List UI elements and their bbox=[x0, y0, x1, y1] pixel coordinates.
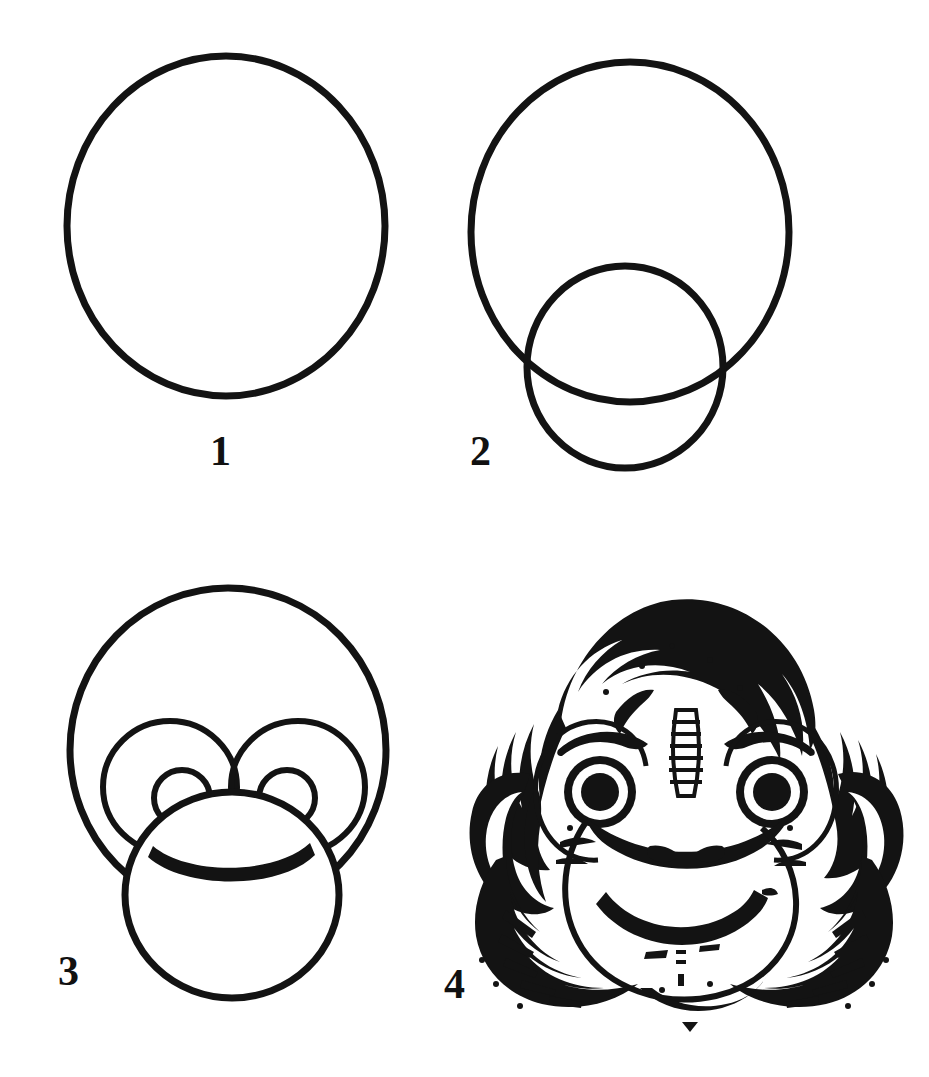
step-1-label: 1 bbox=[210, 430, 231, 472]
mouth-right-flick bbox=[762, 888, 778, 896]
step-2-drawing bbox=[440, 0, 929, 540]
step-4-panel bbox=[410, 560, 929, 1060]
step-3-panel bbox=[10, 545, 450, 1075]
mouth bbox=[596, 890, 768, 945]
muzzle-circle bbox=[125, 792, 339, 998]
step-1-drawing bbox=[0, 0, 465, 540]
step-4-label: 4 bbox=[444, 963, 465, 1005]
step-3-drawing bbox=[10, 545, 450, 1075]
right-pupil bbox=[753, 773, 791, 811]
step-2-label: 2 bbox=[470, 430, 491, 472]
chimp-face bbox=[470, 599, 904, 1032]
muzzle-circle bbox=[527, 266, 723, 468]
tutorial-sheet: 1 2 3 bbox=[0, 0, 929, 1077]
head-circle bbox=[67, 56, 385, 396]
left-cheek-fur bbox=[475, 856, 638, 1007]
left-pupil bbox=[581, 773, 619, 811]
chin-marks bbox=[644, 944, 720, 993]
muzzle-outline bbox=[565, 822, 796, 999]
step-2-panel bbox=[440, 0, 929, 540]
right-cheek-fur bbox=[730, 856, 893, 1007]
step-3-label: 3 bbox=[58, 950, 79, 992]
step-4-drawing bbox=[410, 560, 929, 1060]
step-1-panel bbox=[0, 0, 465, 540]
bottom-fleck bbox=[682, 1022, 698, 1032]
head-circle bbox=[471, 62, 789, 402]
